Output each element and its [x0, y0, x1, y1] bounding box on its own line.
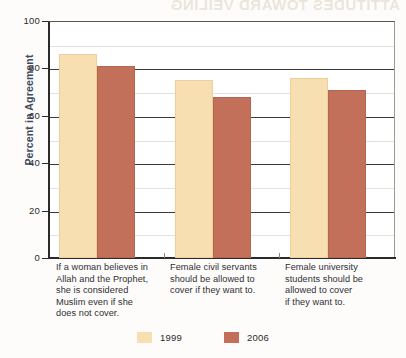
- legend-label-2006: 2006: [247, 332, 269, 343]
- y-tick-mark-20: [42, 211, 48, 212]
- category-label-2-line-2: should be allowed to: [170, 274, 282, 286]
- bar-1999-group-2: [175, 80, 213, 258]
- legend-item-2006: 2006: [224, 332, 269, 343]
- y-tick-label-80: 80: [6, 62, 40, 73]
- y-tick-label-20: 20: [6, 205, 40, 216]
- category-label-1-line-4: Muslim even if she: [56, 297, 168, 309]
- category-label-3: Female universitystudents should beallow…: [285, 262, 397, 308]
- category-label-1-line-2: Allah and the Prophet,: [56, 274, 168, 286]
- legend-swatch-2006: [224, 332, 239, 343]
- y-tick-mark-40: [42, 163, 48, 164]
- category-label-3-line-3: allowed to cover: [285, 285, 397, 297]
- x-axis-separator-1: [164, 253, 165, 258]
- chart-legend: 19992006: [0, 332, 406, 343]
- legend-label-1999: 1999: [160, 332, 182, 343]
- bar-2006-group-1: [97, 66, 135, 258]
- category-label-1-line-1: If a woman believes in: [56, 262, 168, 274]
- legend-swatch-1999: [137, 332, 152, 343]
- bar-1999-group-3: [290, 78, 328, 258]
- bar-chart: Percent in Agreement 020406080100 If a w…: [0, 0, 406, 358]
- category-label-2: Female civil servantsshould be allowed t…: [170, 262, 282, 297]
- category-label-3-line-4: if they want to.: [285, 297, 397, 309]
- y-tick-mark-0: [42, 258, 48, 259]
- legend-item-1999: 1999: [137, 332, 182, 343]
- y-tick-label-40: 40: [6, 157, 40, 168]
- category-label-1: If a woman believes inAllah and the Prop…: [56, 262, 168, 320]
- bar-2006-group-3: [328, 90, 366, 258]
- y-tick-mark-100: [42, 21, 48, 22]
- category-label-1-line-5: does not cover.: [56, 308, 168, 320]
- gridline-minor-90: [50, 46, 394, 47]
- y-tick-label-100: 100: [6, 15, 40, 26]
- category-label-1-line-3: she is considered: [56, 285, 168, 297]
- y-tick-label-0: 0: [6, 252, 40, 263]
- category-label-2-line-1: Female civil servants: [170, 262, 282, 274]
- x-axis-separator-2: [279, 253, 280, 258]
- y-tick-mark-80: [42, 68, 48, 69]
- category-label-3-line-2: students should be: [285, 274, 397, 286]
- category-label-2-line-3: cover if they want to.: [170, 285, 282, 297]
- y-tick-mark-60: [42, 116, 48, 117]
- category-label-3-line-1: Female university: [285, 262, 397, 274]
- bar-2006-group-2: [213, 97, 251, 258]
- bar-1999-group-1: [59, 54, 97, 258]
- y-tick-label-60: 60: [6, 110, 40, 121]
